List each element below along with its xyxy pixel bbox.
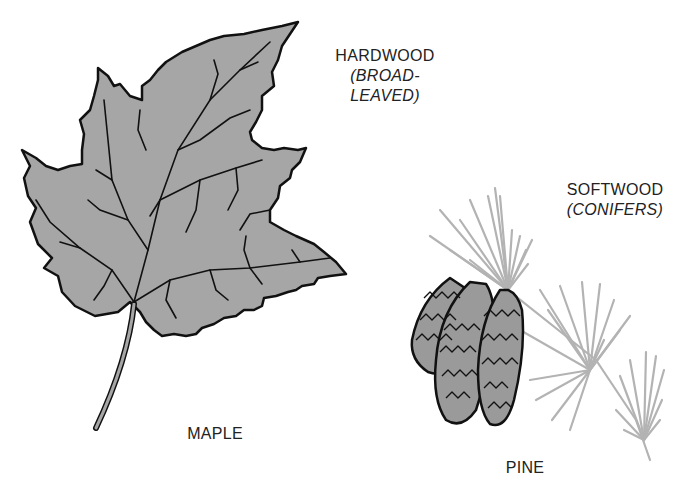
- maple-leaf-icon: [22, 22, 346, 428]
- pine-caption: PINE: [500, 458, 550, 478]
- hardwood-title: HARDWOOD: [335, 47, 434, 64]
- maple-caption: MAPLE: [180, 424, 250, 444]
- softwood-label: SOFTWOOD (CONIFERS): [560, 180, 670, 220]
- hardwood-label: HARDWOOD (BROAD-LEAVED): [320, 46, 450, 106]
- softwood-subtitle: (CONIFERS): [560, 200, 670, 220]
- pine-cones-icon: [412, 278, 523, 425]
- softwood-title: SOFTWOOD: [567, 181, 664, 198]
- hardwood-subtitle: (BROAD-LEAVED): [320, 66, 450, 106]
